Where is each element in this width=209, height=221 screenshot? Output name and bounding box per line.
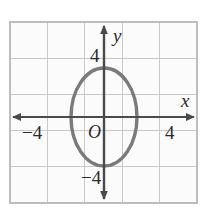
tick-label-x--4: −4 bbox=[22, 122, 43, 143]
graph-svg: y x O 4−4−44 bbox=[0, 0, 209, 221]
tick-label-y-4: 4 bbox=[90, 45, 100, 66]
tick-label-y--4: −4 bbox=[81, 167, 102, 188]
x-axis-label: x bbox=[180, 90, 190, 111]
y-axis-label: y bbox=[111, 25, 122, 46]
origin-label: O bbox=[88, 122, 101, 142]
coordinate-plane-figure: y x O 4−4−44 bbox=[0, 0, 209, 221]
tick-label-x-4: 4 bbox=[165, 122, 175, 143]
